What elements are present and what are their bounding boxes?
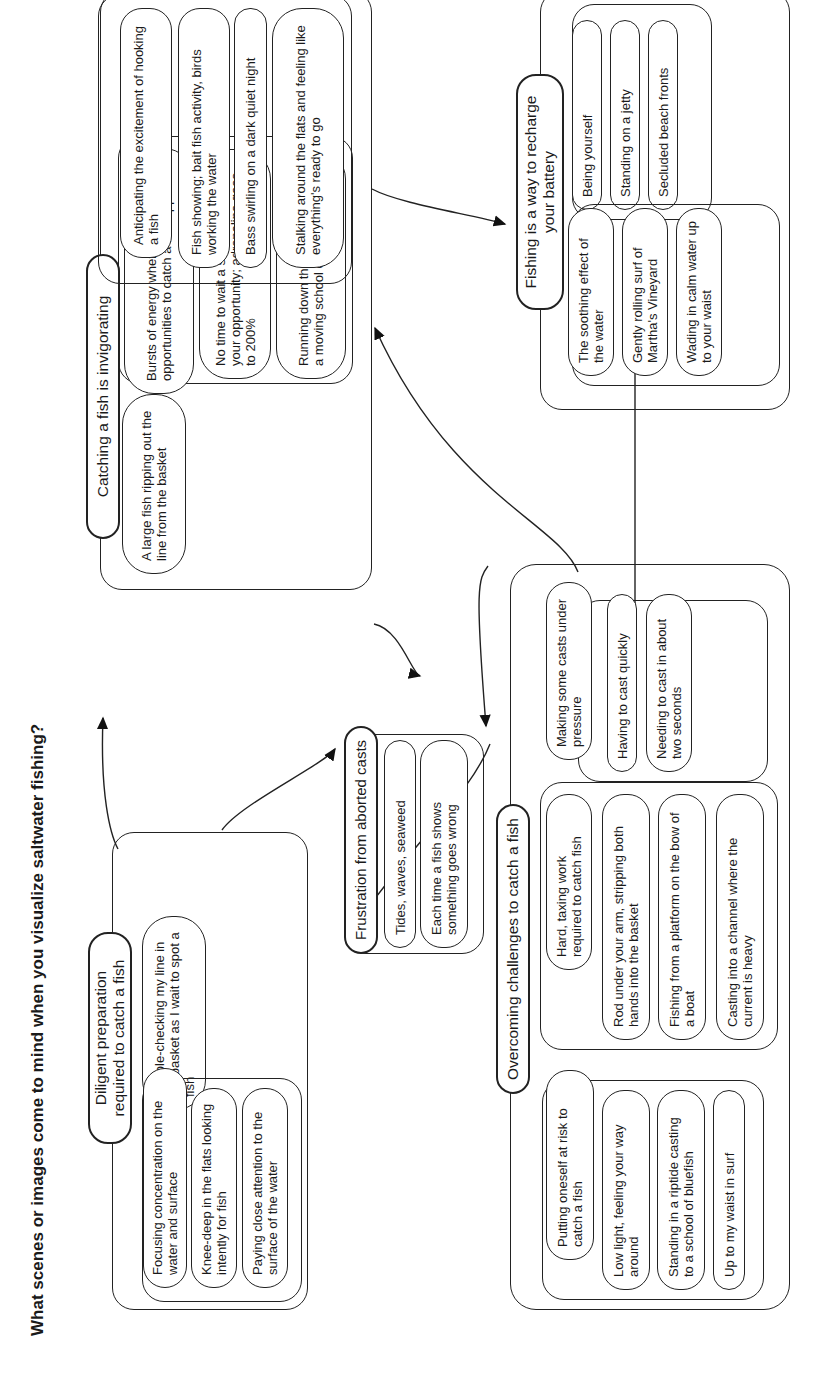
recharge-g2-item-1: The soothing effect of the water — [568, 208, 614, 376]
recharge-g1-item-1: Being yourself — [572, 20, 602, 210]
diligent-item-3: Paying close attention to the surface of… — [242, 1088, 288, 1288]
diligent-item-2: Knee-deep in the flats looking intently … — [191, 1088, 237, 1288]
recharge-g2-item-2: Gently rolling surf of Martha's Vineyard — [622, 208, 668, 376]
catching-header: Catching a fish is invigorating — [86, 254, 120, 539]
overcoming-g1-item-4: Up to my waist in surf — [713, 1090, 745, 1290]
diligent-header: Diligent preparation required to catch a… — [88, 932, 132, 1144]
overcoming-g2-item-1: Hard, taxing work required to catch fish — [546, 794, 592, 970]
overcoming-g3-item-2: Having to cast quickly — [607, 594, 637, 772]
overcoming-g1-item-3: Standing in a riptide casting to a schoo… — [657, 1090, 705, 1290]
arrow-catching-to-recharge — [372, 189, 505, 224]
arrow-diligent-to-catching — [102, 718, 118, 849]
catching-group2-item-1: Anticipating the excitement of hooking a… — [120, 8, 172, 258]
frustration-header: Frustration from aborted casts — [344, 726, 378, 954]
catching-group2-item-4: Stalking around the flats and feeling li… — [272, 8, 344, 268]
catching-group2-item-3: Bass swirling on a dark quiet night — [234, 8, 267, 268]
catching-single-item: A large fish ripping out the line from t… — [122, 394, 186, 574]
overcoming-g1-item-2: Low light, feeling your way around — [602, 1090, 650, 1290]
overcoming-header: Overcoming challenges to catch a fish — [496, 804, 530, 1094]
recharge-g1-item-2: Standing on a jetty — [610, 20, 640, 210]
recharge-header: Fishing is a way to recharge your batter… — [516, 74, 564, 310]
recharge-g1-item-3: Secluded beach fronts — [648, 20, 678, 210]
concept-map-canvas: What scenes or images come to mind when … — [0, 0, 818, 1394]
catching-group2-item-2: Fish showing; bait fish activity, birds … — [178, 8, 230, 268]
frustration-item-1: Tides, waves, seaweed — [384, 740, 416, 948]
overcoming-g1-item-1: Putting oneself at risk to catch a fish — [546, 1070, 594, 1260]
overcoming-g2-item-4: Casting into a channel where the current… — [716, 794, 764, 1040]
overcoming-g3-item-3: Needing to cast in about two seconds — [646, 594, 692, 772]
arrow-catching-to-frustration — [374, 624, 420, 676]
recharge-g2-item-3: Wading in calm water up to your waist — [676, 208, 722, 376]
arrow-diligent-to-frustration — [222, 749, 335, 830]
arrow-overcoming-to-frustration — [479, 566, 488, 726]
frustration-item-2: Each time a fish shows something goes wr… — [420, 740, 468, 948]
overcoming-g2-item-3: Fishing from a platform on the bow of a … — [658, 794, 706, 1040]
diagram-title: What scenes or images come to mind when … — [28, 724, 48, 1336]
diligent-item-1: Focusing concentration on the water and … — [143, 1068, 187, 1288]
overcoming-g3-item-1: Making some casts under pressure — [546, 582, 592, 760]
overcoming-g2-item-2: Rod under your arm, stripping both hands… — [602, 794, 650, 1040]
